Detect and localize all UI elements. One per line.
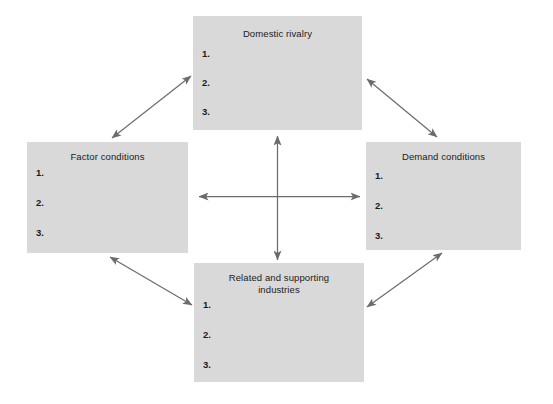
node-factor-conditions-items: 1. 2. 3. bbox=[36, 167, 44, 257]
list-item: 2. bbox=[36, 197, 44, 208]
node-domestic-rivalry: Domestic rivalry 1. 2. 3. bbox=[193, 16, 362, 130]
diagonal-bottom-right-arrow bbox=[367, 253, 442, 307]
node-related-industries-items: 1. 2. 3. bbox=[203, 299, 211, 389]
node-demand-conditions-items: 1. 2. 3. bbox=[375, 170, 383, 260]
diagonal-top-right-arrow bbox=[367, 79, 437, 137]
list-item: 1. bbox=[202, 48, 210, 59]
list-item: 2. bbox=[203, 329, 211, 340]
diagram-canvas: Domestic rivalry 1. 2. 3. Factor conditi… bbox=[0, 0, 553, 404]
list-item: 2. bbox=[375, 200, 383, 211]
list-item: 3. bbox=[202, 106, 210, 117]
list-item: 1. bbox=[36, 167, 44, 178]
list-item: 3. bbox=[36, 227, 44, 238]
node-factor-conditions-title: Factor conditions bbox=[27, 151, 188, 163]
list-item: 3. bbox=[203, 359, 211, 370]
list-item: 3. bbox=[375, 230, 383, 241]
list-item: 1. bbox=[375, 170, 383, 181]
diagonal-top-left-arrow bbox=[112, 76, 191, 138]
node-related-industries-title-line1: Related and supporting bbox=[194, 272, 364, 284]
node-demand-conditions-title: Demand conditions bbox=[366, 151, 521, 163]
node-factor-conditions: Factor conditions 1. 2. 3. bbox=[27, 142, 188, 253]
diagonal-bottom-left-arrow bbox=[110, 257, 192, 305]
node-related-industries-title: Related and supporting industries bbox=[194, 272, 364, 296]
node-domestic-rivalry-title: Domestic rivalry bbox=[193, 28, 362, 40]
node-related-industries: Related and supporting industries 1. 2. … bbox=[194, 263, 364, 382]
list-item: 1. bbox=[203, 299, 211, 310]
list-item: 2. bbox=[202, 77, 210, 88]
node-related-industries-title-line2: industries bbox=[194, 284, 364, 296]
node-domestic-rivalry-items: 1. 2. 3. bbox=[202, 48, 210, 135]
node-demand-conditions: Demand conditions 1. 2. 3. bbox=[366, 142, 521, 250]
